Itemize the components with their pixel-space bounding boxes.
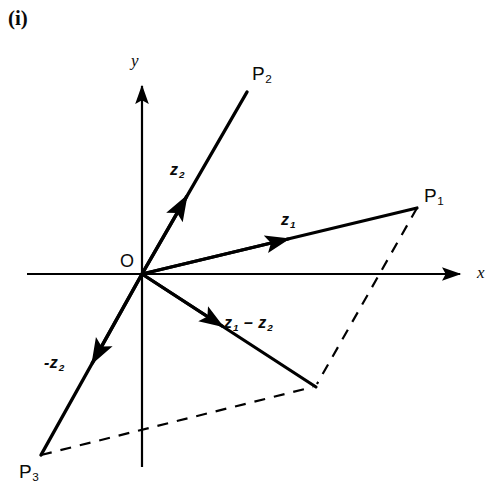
- vector-label-difference-operator: –: [239, 314, 258, 331]
- x-axis-label: x: [477, 264, 485, 281]
- axes-group: [27, 86, 460, 467]
- point-label-p1-subscript: 1: [437, 194, 444, 207]
- point-label-p3-base: P: [19, 461, 32, 482]
- arrowhead-z1: [142, 239, 289, 274]
- y-axis-label: y: [131, 52, 139, 69]
- point-label-p2-subscript: 2: [265, 72, 272, 85]
- vector-label-z1-minus-z2: z1 – z2: [224, 315, 273, 333]
- vector-diagram-figure: (i) y x O P1 P2 P3 z1 z2 -z2 z1 – z2: [0, 0, 501, 501]
- vector-label-difference-second-subscript: 2: [267, 322, 274, 333]
- point-label-p1: P1: [424, 186, 444, 207]
- arrowhead-neg-z2: [92, 274, 142, 364]
- point-label-p2: P2: [252, 64, 272, 85]
- part-enumerator-label: (i): [8, 8, 28, 29]
- vector-label-z2-subscript: 2: [179, 169, 186, 180]
- diagram-canvas: [0, 0, 501, 501]
- point-label-p1-base: P: [424, 185, 437, 206]
- dashed-line-p3-to-vertex: [41, 387, 313, 455]
- vector-label-z1: z1: [281, 212, 296, 230]
- point-label-p2-base: P: [252, 63, 265, 84]
- vector-label-negative-z2: -z2: [44, 355, 65, 373]
- point-label-p3: P3: [19, 462, 39, 483]
- vector-label-difference-first-base: z: [224, 314, 233, 331]
- vector-label-z2-base: z: [170, 161, 179, 178]
- point-label-p3-subscript: 3: [32, 470, 39, 483]
- vector-label-negative-z2-base: -z: [44, 354, 58, 371]
- vector-label-negative-z2-subscript: 2: [58, 362, 65, 373]
- vector-arrowheads: [92, 196, 289, 364]
- origin-label: O: [120, 252, 134, 270]
- vector-label-difference-second-base: z: [258, 314, 267, 331]
- vector-label-z1-subscript: 1: [290, 219, 297, 230]
- vector-label-z2: z2: [170, 162, 185, 180]
- dashed-line-p1-to-vertex: [317, 208, 417, 384]
- vector-label-z1-base: z: [281, 211, 290, 228]
- arrowhead-z2: [142, 196, 187, 274]
- arrowhead-z1-minus-z2: [142, 274, 223, 327]
